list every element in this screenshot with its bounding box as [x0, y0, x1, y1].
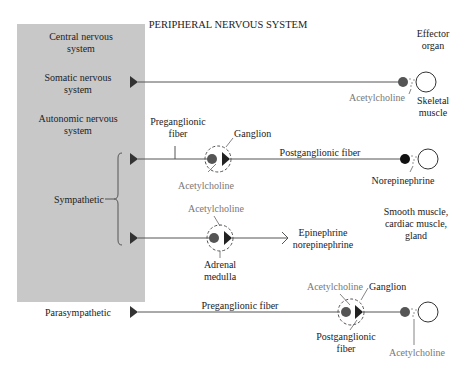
adrenal-medulla-label-2: medulla	[204, 271, 237, 282]
title: PERIPHERAL NERVOUS SYSTEM	[149, 19, 308, 30]
parasympathetic-preganglionic-label: Preganglionic fiber	[202, 300, 280, 311]
sympathetic-axon-terminal-icon	[400, 154, 410, 164]
parasympathetic-ganglion-label: Ganglion	[369, 281, 406, 292]
somatic-ach-leader	[409, 89, 411, 94]
adrenal-medulla-label: Adrenal	[204, 259, 236, 270]
somatic-neurotransmitter-label: Acetylcholine	[349, 92, 406, 103]
sympathetic-ganglion-ach-label: Acetylcholine	[178, 180, 235, 191]
preganglionic-label-2: fiber	[169, 128, 189, 139]
postganglionic-label: Postganglionic fiber	[280, 147, 361, 158]
autonomic-effectors-label-2: cardiac muscle,	[385, 218, 447, 229]
adrenal-ach-label: Acetylcholine	[188, 203, 245, 214]
preganglionic-label: Preganglionic	[150, 116, 206, 127]
parasympathetic-label: Parasympathetic	[45, 307, 112, 318]
postganglionic-cell-body-icon	[222, 152, 230, 166]
cns-panel	[17, 24, 145, 302]
sympathetic-effector-icon	[418, 149, 438, 169]
somatic-axon-terminal-icon	[398, 77, 408, 87]
norepinephrine-dots-icon	[411, 155, 417, 164]
sympathetic-label: Sympathetic	[54, 194, 105, 205]
parasympathetic-effector-icon	[418, 302, 438, 322]
somatic-neurotransmitter-dots-icon	[409, 78, 415, 87]
autonomic-effectors-label: Smooth muscle,	[384, 206, 448, 217]
cns-label-2: system	[67, 43, 95, 54]
pns-diagram: Central nervous system Somatic nervous s…	[0, 0, 466, 372]
ganglion-leader	[226, 138, 233, 147]
norepinephrine-label: Norepinephrine	[372, 175, 435, 186]
parasympathetic-ganglion-ach-label: Acetylcholine	[307, 281, 364, 292]
ganglion-label: Ganglion	[234, 128, 271, 139]
somatic-label-2: system	[64, 84, 92, 95]
skeletal-muscle-label-2: muscle	[419, 107, 448, 118]
adrenal-ach-leader	[214, 216, 220, 226]
parasympathetic-cell-body-icon	[130, 306, 138, 318]
parasympathetic-effector-ach-label: Acetylcholine	[389, 347, 446, 358]
parasympathetic-postganglionic-label: Postganglionic	[316, 331, 376, 342]
cns-label: Central nervous	[49, 31, 113, 42]
sympathetic-ganglion-terminal-icon	[207, 154, 217, 164]
adrenal-chromaffin-icon	[224, 231, 232, 245]
epinephrine-label-2: norepinephrine	[293, 239, 354, 250]
parasympathetic-axon-terminal-icon	[400, 307, 410, 317]
autonomic-label-2: system	[64, 125, 92, 136]
norepinephrine-leader	[410, 166, 413, 172]
autonomic-effectors-label-3: gland	[405, 230, 427, 241]
parasympathetic-postganglionic-cell-icon	[355, 305, 363, 319]
epinephrine-label: Epinephrine	[299, 227, 348, 238]
effector-header-2: organ	[422, 40, 445, 51]
autonomic-label: Autonomic nervous	[38, 113, 117, 124]
somatic-label: Somatic nervous	[45, 72, 112, 83]
parasympathetic-ganglion-terminal-icon	[341, 307, 351, 317]
parasympathetic-ach-dots-icon	[411, 308, 417, 317]
adrenal-terminal-icon	[209, 233, 219, 243]
skeletal-muscle-icon	[416, 72, 436, 92]
parasympathetic-postganglionic-label-2: fiber	[337, 343, 357, 354]
effector-header: Effector	[417, 28, 450, 39]
skeletal-muscle-label: Skeletal	[417, 95, 449, 106]
